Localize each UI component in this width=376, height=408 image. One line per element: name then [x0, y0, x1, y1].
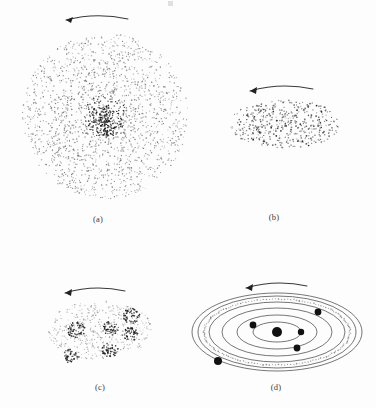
panel-b — [231, 86, 339, 149]
panel-a — [22, 16, 188, 200]
panel-d — [192, 283, 362, 371]
panel-d-arrow — [246, 283, 307, 291]
panel-label-b: (b) — [262, 212, 286, 222]
panel-label-c: (c) — [88, 382, 112, 392]
panel-label-d: (d) — [264, 382, 288, 392]
panel-b-arrow — [250, 86, 313, 94]
panel-b-dot-cloud — [231, 99, 339, 148]
panel-c — [48, 288, 152, 363]
panel-c-protoplanet-clumps — [64, 308, 141, 363]
panel-a-dot-cloud — [22, 34, 188, 199]
panel-d-bodies — [214, 309, 321, 365]
panel-a-arrow — [66, 16, 128, 23]
panel-c-arrow — [65, 288, 125, 296]
figure-canvas: (a) (b) (c) (d) — [0, 0, 376, 408]
scan-smudge-top — [168, 1, 173, 6]
panel-label-a: (a) — [86, 214, 110, 224]
four-panel-nebula-figure — [0, 0, 376, 408]
